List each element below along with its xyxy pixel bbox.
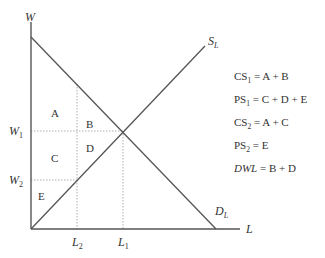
equation-dwl: DWL = B + D [233,162,296,174]
equation-ps2: PS2 = E [234,139,269,154]
l1-label: L1 [117,235,129,251]
x-axis-label: L [245,222,253,236]
region-d-label: D [86,142,94,154]
l2-label: L2 [71,235,83,251]
w1-label: W1 [9,124,23,140]
equation-cs1: CS1 = A + B [234,70,289,85]
region-e-label: E [38,190,45,202]
labor-market-diagram: W L SL DL W1 W2 L2 L1 A B C D E CS1 = A … [0,0,325,258]
equation-ps1: PS1 = C + D + E [234,93,307,108]
surplus-equations: CS1 = A + B PS1 = C + D + E CS2 = A + C … [233,70,307,174]
equation-cs2: CS2 = A + C [234,116,289,131]
region-c-label: C [51,152,58,164]
region-b-label: B [86,118,93,130]
demand-curve-label: DL [214,204,229,220]
region-a-label: A [51,107,59,119]
supply-curve [31,46,205,229]
supply-curve-label: SL [208,34,219,50]
y-axis-label: W [25,10,36,24]
w2-label: W2 [9,173,23,189]
